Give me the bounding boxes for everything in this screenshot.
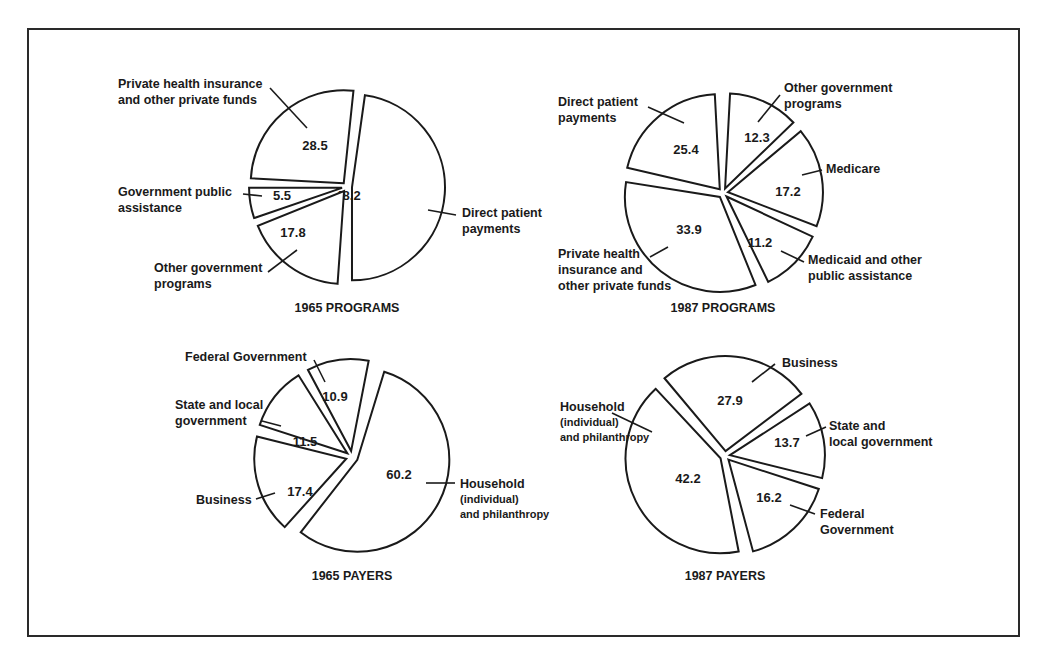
slice-label: FederalGovernment: [820, 507, 894, 537]
chart-title: 1987 PROGRAMS: [671, 301, 776, 315]
chart-title: 1965 PAYERS: [312, 569, 393, 583]
slice-value: 10.9: [322, 389, 347, 404]
slice-medicaid-and-other-public-assistance: 11.2Medicaid and otherpublic assistance: [727, 197, 922, 283]
slice-value: 28.5: [302, 138, 327, 153]
slice-direct-patient-payments: 48.2Direct patientpayments: [335, 95, 542, 280]
slice-private-health-insurance-and-other-private-funds: 33.9Private healthinsurance andother pri…: [558, 182, 755, 293]
slice-label: State andlocal government: [829, 419, 933, 449]
pie-chart-1965-programs: 48.2Direct patientpayments17.8Other gove…: [118, 77, 543, 315]
pie-charts-figure: 48.2Direct patientpayments17.8Other gove…: [0, 0, 1042, 663]
chart-title: 1965 PROGRAMS: [295, 301, 400, 315]
slice-label: State and localgovernment: [175, 398, 263, 428]
pie-chart-1987-programs: 12.3Other governmentprograms17.2Medicare…: [558, 81, 922, 315]
slice-label: Business: [196, 493, 252, 507]
slice-value: 33.9: [676, 222, 701, 237]
slice-label: Medicare: [826, 162, 880, 176]
slice-label: Government publicassistance: [118, 185, 232, 215]
chart-title: 1987 PAYERS: [685, 569, 766, 583]
slice-direct-patient-payments: 25.4Direct patientpayments: [558, 94, 720, 189]
slice-label: Other governmentprograms: [154, 261, 263, 291]
slice-label: Household(individual)and philanthropy: [460, 477, 550, 520]
slice-value: 25.4: [673, 142, 699, 157]
slice-value: 17.4: [287, 484, 313, 499]
slice-label: Direct patientpayments: [462, 206, 543, 236]
pie-chart-1987-payers: 27.9Business13.7State andlocal governmen…: [560, 356, 933, 583]
wedge: [352, 95, 445, 280]
slice-value: 17.2: [775, 184, 800, 199]
slice-label: Private health insuranceand other privat…: [118, 77, 263, 107]
slice-value: 16.2: [756, 490, 781, 505]
slice-private-health-insurance-and-other-private-funds: 28.5Private health insuranceand other pr…: [118, 77, 353, 183]
slice-value: 42.2: [675, 471, 700, 486]
slice-label: Other governmentprograms: [784, 81, 893, 111]
slice-label: Federal Government: [185, 350, 307, 364]
slice-value: 17.8: [280, 225, 305, 240]
pie-chart-1965-payers: 60.2Household(individual)and philanthrop…: [175, 350, 550, 583]
slice-value: 60.2: [386, 467, 411, 482]
slice-value: 13.7: [774, 435, 799, 450]
slice-value: 27.9: [717, 393, 742, 408]
slice-other-government-programs: 17.8Other governmentprograms: [154, 191, 344, 291]
slice-value: 11.5: [293, 434, 318, 449]
slice-value: 11.2: [748, 235, 773, 250]
slice-label: Medicaid and otherpublic assistance: [808, 253, 922, 283]
slice-value: 12.3: [744, 130, 769, 145]
slice-value: 5.5: [273, 188, 291, 203]
wedge: [251, 90, 354, 183]
slice-label: Direct patientpayments: [558, 95, 639, 125]
slice-label: Business: [782, 356, 838, 370]
